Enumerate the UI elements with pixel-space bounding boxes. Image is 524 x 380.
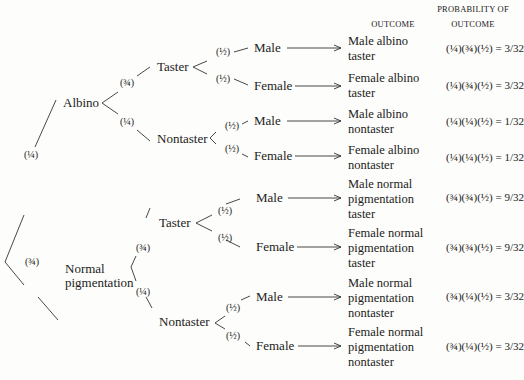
node-male: Male <box>254 41 281 55</box>
node-normal-line2: pigmentation <box>65 276 134 290</box>
node-male: Male <box>256 290 283 304</box>
outcome-6: Female normalpigmentationtaster <box>348 226 423 271</box>
outcome-3: Male albinonontaster <box>348 107 408 137</box>
sex-probability: (½) <box>216 46 230 57</box>
node-male: Male <box>256 191 283 205</box>
outcome-probability-8: (¾)(¼)(½) = 3/32 <box>446 340 524 352</box>
sex-probability: (½) <box>226 302 240 313</box>
probability-header-line2: OUTCOME <box>430 19 516 29</box>
outcome-probability-5: (¾)(¾)(½) = 9/32 <box>446 191 524 203</box>
node-albino: Albino <box>63 96 99 110</box>
sex-probability: (½) <box>218 205 232 216</box>
outcome-probability-3: (¼)(¼)(½) = 1/32 <box>446 115 524 127</box>
node-normal-taster: Taster <box>159 216 191 230</box>
arrow-icons <box>287 45 341 349</box>
normal-probability: (¾) <box>25 256 39 267</box>
outcome-4: Female albinonontaster <box>348 143 419 173</box>
sex-probability: (½) <box>225 143 239 154</box>
node-normal-line1: Normal <box>65 262 105 276</box>
outcome-probability-1: (¼)(¾)(½) = 3/32 <box>446 42 524 54</box>
normal-nontaster-probability: (¼) <box>136 286 150 297</box>
sex-probability: (½) <box>218 232 232 243</box>
albino-probability: (¼) <box>24 149 38 160</box>
sex-probability: (½) <box>216 73 230 84</box>
outcome-probability-7: (¾)(¼)(½) = 3/32 <box>446 290 524 302</box>
normal-taster-probability: (¾) <box>136 242 150 253</box>
outcome-8: Female normalpigmentationnontaster <box>348 325 423 370</box>
node-albino-nontaster: Nontaster <box>157 132 208 146</box>
outcome-7: Male normalpigmentationnontaster <box>348 276 414 321</box>
outcome-probability-6: (¾)(¾)(½) = 9/32 <box>446 241 524 253</box>
node-female: Female <box>254 79 292 93</box>
outcome-probability-4: (¼)(¼)(½) = 1/32 <box>446 151 524 163</box>
sex-probability: (½) <box>225 120 239 131</box>
outcome-header: OUTCOME <box>358 19 428 29</box>
outcome-probability-2: (¼)(¾)(½) = 3/32 <box>446 79 524 91</box>
node-female: Female <box>256 240 294 254</box>
outcome-1: Male albinotaster <box>348 34 408 64</box>
sex-probability: (½) <box>226 330 240 341</box>
node-female: Female <box>254 149 292 163</box>
node-female: Female <box>256 339 294 353</box>
node-normal-nontaster: Nontaster <box>159 315 210 329</box>
outcome-2: Female albinotaster <box>348 71 419 101</box>
probability-header-line1: PROBABILITY OF <box>430 4 516 14</box>
albino-nontaster-probability: (¼) <box>120 116 134 127</box>
outcome-5: Male normalpigmentationtaster <box>348 177 414 222</box>
node-albino-taster: Taster <box>157 60 189 74</box>
albino-taster-probability: (¾) <box>120 77 134 88</box>
node-male: Male <box>254 114 281 128</box>
